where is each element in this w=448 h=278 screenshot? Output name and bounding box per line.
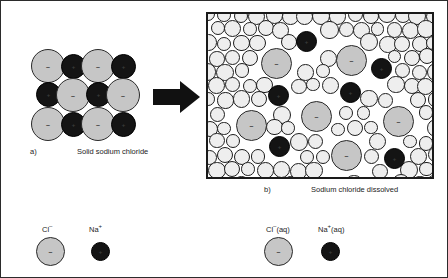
- panel-a-letter: a): [30, 147, 37, 156]
- dissolved-ion-na: +: [268, 85, 289, 106]
- water-molecule: [226, 134, 240, 148]
- panel-b-letter: b): [264, 185, 271, 194]
- water-molecule: [257, 162, 274, 179]
- water-molecule: [206, 92, 215, 106]
- water-molecule: [249, 35, 266, 52]
- charge-sign: +: [380, 66, 384, 72]
- water-molecule: [281, 34, 297, 50]
- panel-b-caption: Sodium chloride dissolved: [311, 185, 398, 194]
- water-molecule: [281, 121, 295, 135]
- water-molecule: [234, 176, 249, 179]
- water-molecule: [208, 162, 225, 179]
- dissolved-ion-na: +: [340, 82, 361, 103]
- dissolved-ion-na: +: [384, 148, 405, 169]
- charge-sign: –: [121, 92, 125, 99]
- charge-sign: +: [278, 144, 282, 150]
- water-molecule: [217, 92, 233, 108]
- water-molecule: [347, 120, 363, 136]
- charge-sign: –: [96, 63, 100, 70]
- dissolved-ion-cl: –: [236, 110, 267, 141]
- water-molecule: [378, 12, 396, 23]
- legend-swatch-chloride-solid: –: [36, 237, 65, 266]
- water-molecule: [320, 21, 338, 39]
- charge-sign: –: [315, 113, 319, 120]
- water-molecule: [308, 134, 323, 149]
- dissolved-ion-cl: –: [336, 45, 367, 76]
- charge-sign: +: [122, 122, 126, 128]
- charge-sign: +: [97, 92, 101, 98]
- solution-panel: ––––––++++++: [206, 12, 434, 179]
- water-molecule: [233, 35, 250, 52]
- legend-ion-state: (aq): [331, 225, 344, 234]
- crystal-lattice: –+–++–+––+–+: [31, 49, 141, 141]
- water-molecule: [419, 162, 433, 176]
- charge-sign: +: [47, 92, 51, 98]
- legend-ion-charge: +: [99, 223, 103, 229]
- water-molecule: [241, 162, 255, 176]
- water-molecule: [412, 176, 427, 179]
- water-molecule: [206, 12, 215, 21]
- water-molecule: [372, 164, 387, 179]
- water-molecule: [296, 12, 313, 25]
- legend-label-sodium-aqueous: Na+(aq): [318, 223, 344, 234]
- water-molecule: [348, 12, 364, 22]
- charge-sign: +: [72, 122, 76, 128]
- water-molecule: [369, 133, 386, 150]
- charge-sign: –: [350, 57, 354, 64]
- water-molecule: [322, 77, 339, 94]
- water-molecule: [360, 33, 378, 51]
- lattice-ion-cl: –: [81, 49, 115, 83]
- charge-sign: –: [71, 92, 75, 99]
- lattice-ion-cl: –: [31, 107, 65, 141]
- dissolved-ion-cl: –: [331, 140, 362, 171]
- charge-sign: +: [305, 39, 309, 45]
- legend-ion-symbol: Na: [318, 225, 328, 234]
- dissolved-ion-na: +: [371, 58, 392, 79]
- charge-sign: +: [349, 90, 353, 96]
- water-molecule: [315, 177, 329, 179]
- lattice-ion-na: +: [111, 54, 136, 79]
- dissolved-ion-na: +: [269, 136, 290, 157]
- lattice-ion-cl: –: [31, 49, 65, 83]
- water-molecule: [291, 79, 306, 94]
- water-molecule: [428, 147, 434, 162]
- dissolution-diagram: –+–++–+––+–+ ––––––++++++ a) Solid sodiu…: [0, 0, 448, 278]
- water-molecule: [360, 90, 377, 107]
- water-molecule: [419, 105, 434, 120]
- water-molecule: [378, 93, 393, 108]
- charge-sign: +: [122, 64, 126, 70]
- legend-swatch-sodium-aqueous: +: [321, 242, 340, 261]
- water-molecule: [224, 161, 240, 177]
- charge-sign: –: [250, 122, 254, 129]
- legend-ion-state: (aq): [276, 225, 289, 234]
- water-molecule: [210, 107, 225, 122]
- legend-label-chloride-aqueous: Cl–(aq): [266, 223, 290, 234]
- charge-sign: –: [96, 121, 100, 128]
- process-arrow-icon: [153, 80, 201, 114]
- water-molecule: [403, 135, 417, 149]
- panel-a-caption: Solid sodium chloride: [77, 147, 148, 156]
- charge-sign: –: [46, 121, 50, 128]
- water-molecule: [206, 34, 217, 51]
- water-molecule: [387, 76, 405, 94]
- water-molecule: [211, 21, 225, 35]
- charge-sign: –: [275, 60, 279, 67]
- lattice-ion-cl: –: [81, 107, 115, 141]
- legend-swatch-sodium-solid: +: [91, 242, 110, 261]
- water-molecule: [339, 106, 353, 120]
- legend-swatch-chloride-aqueous: –: [264, 237, 293, 266]
- water-molecule: [235, 63, 250, 78]
- water-molecule: [427, 119, 434, 137]
- charge-sign: +: [277, 93, 281, 99]
- water-molecule: [217, 37, 231, 51]
- legend-ion-symbol: Na: [89, 225, 99, 234]
- charge-sign: +: [72, 64, 76, 70]
- water-molecule: [364, 149, 379, 164]
- water-molecule: [306, 78, 320, 92]
- dissolved-ion-na: +: [296, 31, 317, 52]
- water-molecule: [357, 106, 371, 120]
- charge-sign: –: [46, 63, 50, 70]
- dissolved-ion-cl: –: [301, 101, 332, 132]
- water-molecule: [243, 22, 257, 36]
- water-molecule: [345, 175, 363, 179]
